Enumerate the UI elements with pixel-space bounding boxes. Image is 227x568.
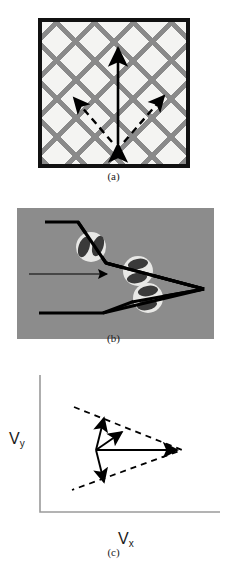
y-axis-label-text: V bbox=[9, 430, 20, 447]
crosshatch-square-frame bbox=[38, 18, 190, 168]
panel-c: (c) bbox=[0, 350, 227, 568]
velocity-vectors bbox=[96, 418, 176, 482]
panel-c-plot bbox=[0, 350, 227, 568]
y-axis-label: Vy bbox=[9, 430, 25, 448]
panel-b: (b) bbox=[0, 190, 227, 350]
panel-b-graphics bbox=[17, 208, 214, 339]
lower-vector bbox=[96, 450, 104, 482]
domain-wall-marker-1 bbox=[76, 222, 107, 263]
dashed-envelope bbox=[72, 407, 182, 490]
panel-b-caption: (b) bbox=[0, 332, 227, 344]
panel-a-caption: (a) bbox=[0, 170, 227, 182]
plot-axes bbox=[40, 375, 220, 512]
panel-a-arrows bbox=[42, 22, 190, 168]
gray-field-background bbox=[17, 208, 214, 339]
x-axis-label: Vx bbox=[118, 530, 134, 548]
panel-c-caption: (c) bbox=[0, 546, 227, 558]
x-axis-label-text: V bbox=[118, 530, 129, 547]
dashed-up-right-arrow bbox=[124, 96, 164, 142]
x-axis-label-subscript: x bbox=[129, 538, 134, 549]
upper-domain-wall-polyline bbox=[45, 222, 204, 289]
panel-a: (a) bbox=[0, 0, 227, 190]
y-axis-label-subscript: y bbox=[20, 438, 25, 449]
dashed-up-left-arrow bbox=[74, 98, 112, 142]
figure-root: (a) bbox=[0, 0, 227, 568]
